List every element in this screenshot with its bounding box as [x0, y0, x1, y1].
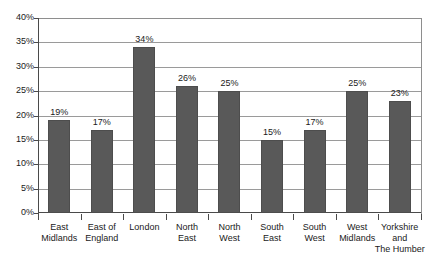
bar[interactable]: [48, 120, 70, 213]
bar[interactable]: [176, 86, 198, 213]
bar[interactable]: [91, 130, 113, 213]
bar[interactable]: [261, 140, 283, 213]
x-axis-tick-mark: [81, 214, 82, 220]
x-axis-tick-mark: [421, 214, 422, 220]
bar[interactable]: [133, 47, 155, 213]
bar-value-label: 25%: [348, 79, 366, 88]
x-axis-category-label-line: The Humber: [374, 244, 425, 255]
plot-right-border: [421, 18, 422, 214]
bar-group: 26%: [166, 18, 209, 213]
y-axis-tick-label: 35%: [0, 37, 34, 46]
bar-group: 17%: [81, 18, 124, 213]
bar-value-label: 17%: [93, 118, 111, 127]
bar[interactable]: [218, 91, 240, 213]
x-axis-ticks: [38, 214, 422, 220]
bar-value-label: 25%: [220, 79, 238, 88]
bar-group: 34%: [123, 18, 166, 213]
x-axis-tick-mark: [336, 214, 337, 220]
x-axis-category-label-line: Yorkshire: [374, 222, 425, 233]
bar-value-label: 15%: [263, 128, 281, 137]
x-axis-category-label-line: and: [374, 233, 425, 244]
bar-group: 15%: [251, 18, 294, 213]
y-axis-tick-label: 0%: [0, 208, 34, 217]
x-axis-tick-mark: [123, 214, 124, 220]
y-axis-tick-label: 15%: [0, 135, 34, 144]
x-axis-tick-mark: [293, 214, 294, 220]
bar-group: 23%: [378, 18, 421, 213]
x-axis-tick-mark: [38, 214, 39, 220]
x-axis-category-label: YorkshireandThe Humber: [374, 222, 425, 255]
x-axis-tick-mark: [251, 214, 252, 220]
y-axis-tick-label: 30%: [0, 62, 34, 71]
bar-group: 17%: [293, 18, 336, 213]
bar-group: 25%: [336, 18, 379, 213]
y-axis-tick-label: 10%: [0, 159, 34, 168]
y-axis-tick-label: 25%: [0, 86, 34, 95]
bar-value-label: 26%: [178, 74, 196, 83]
bar-group: 19%: [38, 18, 81, 213]
x-axis-tick-mark: [166, 214, 167, 220]
x-axis-category-labels: EastMidlandsEast ofEnglandLondonNorthEas…: [38, 222, 421, 272]
bar-group: 25%: [208, 18, 251, 213]
x-axis-tick-mark: [208, 214, 209, 220]
bar[interactable]: [389, 101, 411, 213]
y-axis-tick-label: 5%: [0, 184, 34, 193]
bottom-caption: [8, 270, 428, 275]
bar-value-label: 23%: [391, 89, 409, 98]
y-axis-tick-label: 40%: [0, 13, 34, 22]
bar-chart: 0%5%10%15%20%25%30%35%40% 19%17%34%26%25…: [0, 0, 436, 275]
bar[interactable]: [304, 130, 326, 213]
x-axis-tick-mark: [378, 214, 379, 220]
y-axis-tick-label: 20%: [0, 111, 34, 120]
bar-value-label: 17%: [306, 118, 324, 127]
bar-value-label: 19%: [50, 108, 68, 117]
bar-value-label: 34%: [135, 35, 153, 44]
bar[interactable]: [346, 91, 368, 213]
x-axis-category-label-line: England: [77, 233, 128, 244]
bars-layer: 19%17%34%26%25%15%17%25%23%: [38, 18, 421, 213]
